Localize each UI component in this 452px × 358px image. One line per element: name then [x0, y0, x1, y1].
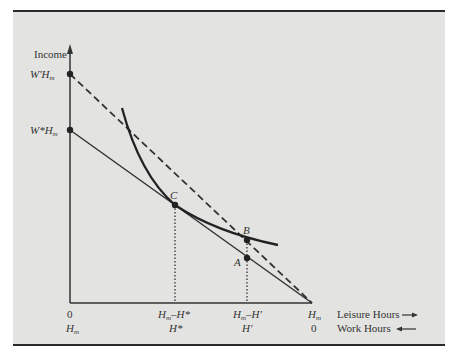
x-tick-leisure-0: 0 [67, 308, 73, 320]
x-tick-work-hprime: H' [241, 322, 253, 334]
y-tick-wstar: W*Hm [30, 124, 58, 138]
chart-svg: Income W'Hm W*Hm C B A 0 Hm–H* Hm–H' Hm … [0, 0, 452, 358]
x-tick-work-hm: Hm [65, 322, 79, 336]
budget-line-wstar [70, 130, 312, 303]
point-b [244, 237, 250, 243]
x-tick-work-hstar: H* [168, 322, 183, 334]
right-arrow-icon [412, 313, 418, 318]
x-tick-leisure-hm-hprime: Hm–H' [232, 308, 262, 322]
y-tick-wprime: W'Hm [30, 68, 55, 82]
left-arrow-icon [396, 327, 402, 332]
budget-line-wprime [70, 74, 312, 303]
label-b: B [243, 224, 250, 236]
label-c: C [170, 189, 178, 201]
point-a [244, 255, 250, 261]
point-wstar-hm [67, 127, 73, 133]
point-wprime-hm [67, 71, 73, 77]
leisure-hours-label: Leisure Hours [337, 308, 400, 320]
work-hours-label: Work Hours [337, 322, 391, 334]
point-c [172, 202, 178, 208]
x-tick-leisure-hm: Hm [307, 308, 321, 322]
y-axis-label: Income [34, 48, 67, 60]
y-axis-arrow-icon [67, 44, 73, 54]
label-a: A [233, 256, 241, 268]
x-tick-leisure-hm-hstar: Hm–H* [157, 308, 190, 322]
x-tick-work-0: 0 [311, 322, 317, 334]
indifference-curve [122, 108, 278, 245]
